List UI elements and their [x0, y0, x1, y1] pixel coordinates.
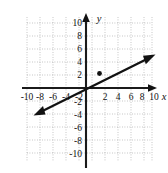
y-tick-label: -2 — [74, 97, 82, 107]
y-tick-label: -4 — [74, 110, 82, 120]
y-axis-label: y — [96, 13, 102, 24]
x-axis-label: x — [161, 91, 167, 102]
y-tick-label: 8 — [77, 31, 82, 41]
graph-canvas: -10 -8 -6 -4 -2 2 4 6 8 10 x 10 8 6 4 2 … — [0, 0, 168, 173]
y-tick-label: 6 — [77, 44, 82, 54]
x-tick-label: -10 — [21, 92, 34, 102]
plotted-line-arrowhead-start — [34, 106, 46, 116]
y-tick-label: 2 — [77, 70, 82, 80]
x-tick-label: -4 — [62, 92, 70, 102]
y-tick-label: -8 — [74, 136, 82, 146]
y-axis-arrowhead — [82, 13, 90, 22]
x-tick-label: 10 — [149, 92, 159, 102]
x-tick-label: 2 — [103, 92, 108, 102]
x-tick-labels-group: -10 -8 -6 -4 -2 2 4 6 8 10 x — [21, 91, 167, 102]
x-tick-label: 8 — [140, 92, 145, 102]
coordinate-plane-figure: -10 -8 -6 -4 -2 2 4 6 8 10 x 10 8 6 4 2 … — [0, 0, 168, 173]
grid-group — [27, 17, 152, 162]
data-point-marker — [97, 71, 102, 76]
plotted-line-arrowhead-end — [143, 55, 156, 65]
x-tick-label: -8 — [36, 92, 44, 102]
x-tick-label: 4 — [116, 92, 121, 102]
y-tick-label: 10 — [73, 18, 83, 28]
x-axis-arrowhead — [148, 84, 157, 92]
x-tick-label: 6 — [129, 92, 134, 102]
x-tick-label: -6 — [49, 92, 57, 102]
y-tick-label: 4 — [77, 57, 82, 67]
y-tick-label: -6 — [74, 123, 82, 133]
y-tick-label: -10 — [69, 149, 82, 159]
plotted-line-group — [34, 55, 156, 116]
